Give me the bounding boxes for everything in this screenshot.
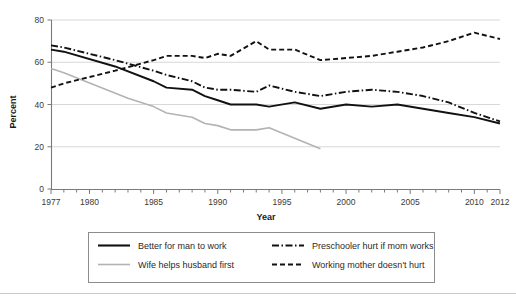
x-tick-label: 1985	[144, 197, 163, 207]
y-axis-title: Percent	[8, 95, 18, 128]
x-tick-label: 1990	[208, 197, 227, 207]
y-tick-label: 60	[35, 57, 45, 67]
series-lines	[51, 33, 500, 149]
legend-label: Preschooler hurt if mom works	[312, 241, 434, 251]
x-axis-title: Year	[256, 212, 276, 222]
y-tick-label: 80	[35, 15, 45, 25]
x-tick-labels: 197719801985199019952000200520102012	[42, 197, 510, 207]
legend-label: Better for man to work	[138, 241, 227, 251]
line-chart: 020406080 197719801985199019952000200520…	[0, 0, 516, 301]
y-tick-label: 20	[35, 142, 45, 152]
x-tick-label: 2012	[491, 197, 510, 207]
x-tick-label: 2010	[465, 197, 484, 207]
y-tick-label: 40	[35, 100, 45, 110]
legend-box	[89, 233, 435, 283]
legend-label: Wife helps husband first	[138, 260, 235, 270]
gridlines	[51, 20, 500, 147]
legend-entries: Better for man to workWife helps husband…	[98, 241, 434, 270]
chart-figure: 020406080 197719801985199019952000200520…	[0, 0, 516, 301]
x-axis	[51, 190, 500, 195]
y-tick-labels: 020406080	[35, 15, 45, 194]
x-tick-label: 1995	[272, 197, 291, 207]
x-tick-label: 2000	[337, 197, 356, 207]
x-tick-label: 2005	[401, 197, 420, 207]
y-axis	[48, 20, 52, 189]
y-tick-label: 0	[39, 184, 44, 194]
legend-label: Working mother doesn't hurt	[312, 260, 425, 270]
x-tick-label: 1980	[80, 197, 99, 207]
x-tick-label: 1977	[42, 197, 61, 207]
